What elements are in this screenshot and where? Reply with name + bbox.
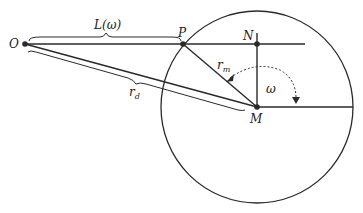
point-N xyxy=(254,41,260,47)
brace-r-d xyxy=(28,51,245,111)
label-omega: ω xyxy=(266,82,276,96)
point-M xyxy=(254,104,260,110)
label-L-omega: L(ω) xyxy=(93,18,121,32)
arrowhead-icon xyxy=(226,74,234,82)
label-r-d: rd xyxy=(129,85,140,101)
label-O: O xyxy=(9,37,19,51)
line-O-to-M xyxy=(25,44,257,107)
label-M: M xyxy=(249,112,263,126)
point-P xyxy=(180,41,186,47)
arrowhead-icon xyxy=(292,97,300,104)
point-O xyxy=(22,41,28,47)
brace-L xyxy=(29,33,181,41)
label-P: P xyxy=(177,26,187,40)
geometry-diagram: O P N M L(ω) rd rm ω xyxy=(0,0,363,213)
label-r-m: rm xyxy=(217,58,231,74)
label-N: N xyxy=(242,29,254,43)
